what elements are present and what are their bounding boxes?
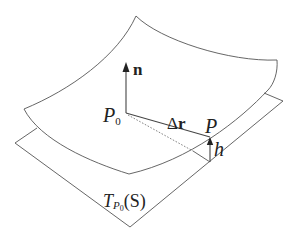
h-vector bbox=[193, 137, 213, 162]
p0-label: P0 bbox=[102, 104, 121, 127]
normal-vector bbox=[123, 62, 130, 113]
delta-r-label: Δr bbox=[167, 114, 186, 133]
p-label: P bbox=[204, 115, 217, 137]
surface-edge-front bbox=[129, 90, 268, 174]
surface-edge-right-top bbox=[268, 60, 277, 90]
tangent-plane-label: TP0(S) bbox=[103, 191, 146, 213]
h-label: h bbox=[214, 138, 224, 160]
curved-surface bbox=[24, 16, 277, 174]
tangent-plane-edge bbox=[15, 93, 283, 227]
surface-edge-back bbox=[136, 16, 277, 60]
tangent-plane bbox=[15, 93, 283, 227]
h-base-line bbox=[193, 151, 210, 162]
surface-diagram: n P0 Δr P h TP0(S) bbox=[0, 0, 296, 235]
surface-edge-left-back bbox=[24, 16, 136, 109]
normal-label: n bbox=[133, 60, 143, 79]
arrowhead-icon bbox=[207, 137, 213, 145]
arrowhead-icon bbox=[123, 62, 130, 72]
